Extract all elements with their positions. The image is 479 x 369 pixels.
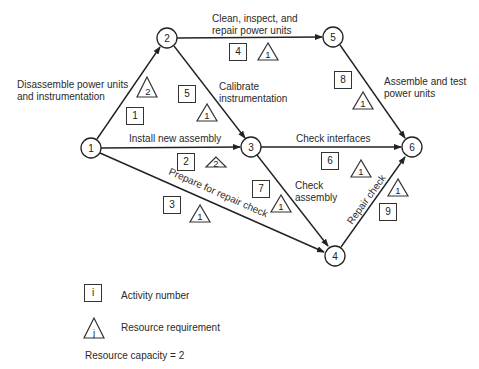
label-activity-1-line-2: and instrumentation — [17, 91, 128, 103]
node-2-label: 2 — [164, 33, 170, 44]
label-activity-8: Assemble and test power units — [384, 76, 466, 100]
legend-box-label: Activity number — [121, 290, 189, 301]
box-activity-1: 1 — [126, 107, 144, 125]
resource-activity-2: 2 — [213, 158, 218, 169]
resource-activity-4: 1 — [265, 49, 270, 60]
resource-activity-3: 1 — [197, 211, 202, 222]
resource-activity-5: 1 — [204, 110, 209, 121]
box-activity-7: 7 — [252, 180, 270, 198]
label-activity-7-line-1: Check — [295, 180, 337, 192]
label-activity-5: Calibrate instrumentation — [219, 81, 287, 105]
box-activity-4: 4 — [229, 43, 247, 61]
box-activity-8: 8 — [334, 71, 352, 89]
arrow-activity-9 — [341, 157, 405, 247]
label-activity-4: Clean, inspect, and repair power units — [212, 13, 298, 37]
legend-triangle-symbol: j — [92, 327, 95, 338]
label-activity-5-line-2: instrumentation — [219, 93, 287, 105]
resource-capacity: Resource capacity = 2 — [85, 350, 184, 361]
node-4-label: 4 — [332, 251, 338, 262]
resource-activity-6: 1 — [358, 166, 363, 177]
box-activity-2: 2 — [177, 153, 195, 171]
node-5-label: 5 — [330, 32, 336, 43]
arrow-activity-2 — [101, 147, 240, 148]
node-1-label: 1 — [88, 143, 94, 154]
arrow-activity-3 — [100, 153, 324, 252]
box-activity-6: 6 — [321, 152, 339, 170]
node-6-label: 6 — [409, 142, 415, 153]
label-activity-7: Check assembly — [295, 180, 337, 204]
node-3-label: 3 — [248, 142, 254, 153]
label-activity-1: Disassemble power units and instrumentat… — [17, 79, 128, 103]
legend-triangle-label: Resource requirement — [121, 322, 220, 333]
label-activity-5-line-1: Calibrate — [219, 81, 287, 93]
box-activity-9: 9 — [379, 203, 397, 221]
arrow-activity-4 — [177, 37, 322, 38]
legend-box: i — [84, 284, 102, 302]
label-activity-8-line-2: power units — [384, 88, 466, 100]
label-activity-6: Check interfaces — [296, 133, 370, 145]
box-activity-5: 5 — [178, 85, 196, 103]
resource-activity-1: 2 — [145, 86, 150, 97]
label-activity-4-line-1: Clean, inspect, and — [212, 13, 298, 25]
resource-activity-8: 1 — [360, 98, 365, 109]
resource-activity-9: 1 — [395, 185, 400, 196]
label-activity-2: Install new assembly — [129, 133, 221, 145]
resource-activity-7: 1 — [278, 201, 283, 212]
label-activity-1-line-1: Disassemble power units — [17, 79, 128, 91]
box-activity-3: 3 — [163, 196, 181, 214]
label-activity-8-line-1: Assemble and test — [384, 76, 466, 88]
label-activity-7-line-2: assembly — [295, 192, 337, 204]
label-activity-4-line-2: repair power units — [212, 25, 298, 37]
